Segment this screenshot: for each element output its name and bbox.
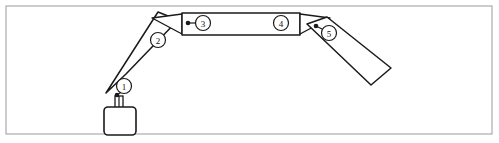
diagram-canvas: 1 2 3 4 5	[0, 0, 499, 143]
callout-2-label: 2	[156, 36, 161, 46]
callout-4: 4	[274, 16, 289, 31]
callout-3-dot	[186, 21, 191, 26]
callout-1-label: 1	[122, 82, 127, 92]
callout-2: 2	[151, 33, 166, 48]
callout-4-label: 4	[279, 19, 284, 29]
callout-5-label: 5	[327, 29, 332, 39]
linkage-diagram: 1 2 3 4 5	[0, 0, 499, 143]
callout-5-dot	[314, 24, 319, 29]
ground-base-block	[104, 107, 136, 135]
callout-3-label: 3	[201, 19, 206, 29]
callout-1-dot	[115, 93, 120, 98]
